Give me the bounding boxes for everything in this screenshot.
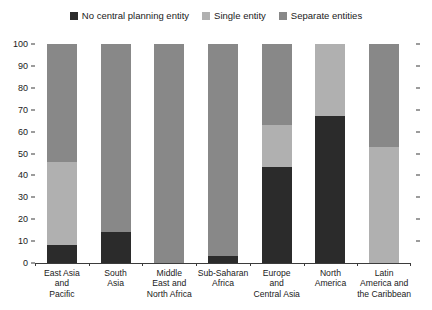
x-axis-category-label-line: Central Asia [241,289,313,299]
bar-segment-single-entity [47,162,77,245]
x-axis-category-label-line: the Caribbean [348,289,420,299]
y-axis-tick-label: 20 [13,215,28,224]
y-axis-tick-50: 50 [13,149,35,158]
bar-segment-separate-entities [154,44,184,263]
y-axis-right-tick-90 [416,65,420,66]
bar-south-asia [101,44,131,263]
bar-segment-no-central-planning-entity [262,167,292,263]
y-axis-tick-30: 30 [13,193,35,202]
bar-segment-single-entity [315,44,345,116]
y-axis-right-tick-80 [416,87,420,88]
x-axis-labels: East AsiaandPacificSouthAsiaMiddleEast a… [35,268,411,310]
bar-segment-no-central-planning-entity [47,245,77,263]
y-axis-tick-60: 60 [13,127,35,136]
legend-swatch-separate-entities [279,12,287,20]
legend-item-separate-entities: Separate entities [279,11,362,21]
x-axis-tick [410,263,411,266]
bar-segment-no-central-planning-entity [101,232,131,263]
x-axis-category-label: LatinAmerica andthe Caribbean [348,268,420,299]
legend-swatch-no-central-planning-entity [70,12,78,20]
y-axis-tick-label: 30 [13,193,28,202]
y-axis-tick-0: 0 [13,259,35,268]
y-axis-tick-label: 60 [13,127,28,136]
x-axis-tick [35,263,36,266]
y-axis-tick-10: 10 [13,237,35,246]
bar-segment-separate-entities [101,44,131,232]
legend-swatch-single-entity [202,12,210,20]
y-axis-tick-label: 50 [13,149,28,158]
y-axis-tick-label: 10 [13,237,28,246]
x-axis-tick [142,263,143,266]
y-axis-tick-90: 90 [13,61,35,70]
y-axis-tick-70: 70 [13,105,35,114]
y-axis-right-tick-60 [416,131,420,132]
y-axis-tick-40: 40 [13,171,35,180]
bar-segment-separate-entities [47,44,77,162]
bar-east-asia-and-pacific [47,44,77,263]
y-axis-right-tick-100 [416,44,420,45]
y-axis-tick-label: 40 [13,171,28,180]
y-axis-right-tick-30 [416,197,420,198]
x-axis-tick [357,263,358,266]
legend-item-no-central-planning-entity: No central planning entity [70,11,189,21]
y-axis: 0102030405060708090100 [0,44,35,263]
bar-segment-no-central-planning-entity [315,116,345,263]
y-axis-right-tick-10 [416,241,420,242]
x-axis-tick [89,263,90,266]
y-axis-tick-80: 80 [13,83,35,92]
bar-segment-separate-entities [208,44,238,256]
legend-label-separate-entities: Separate entities [291,11,362,21]
x-axis-tick [304,263,305,266]
x-axis-category-label-line: Latin [348,268,420,278]
y-axis-right-ticks [411,44,425,263]
plot-area [35,44,411,263]
x-axis-tick [250,263,251,266]
x-axis-ticks [35,263,411,267]
y-axis-tick-100: 100 [13,40,35,49]
legend-item-single-entity: Single entity [202,11,266,21]
legend-label-no-central-planning-entity: No central planning entity [82,11,189,21]
bar-segment-separate-entities [369,44,399,147]
bar-segment-single-entity [369,147,399,263]
y-axis-right-tick-20 [416,219,420,220]
x-axis-category-label-line: North Africa [133,289,205,299]
bar-middle-east-and-north-africa [154,44,184,263]
legend-label-single-entity: Single entity [214,11,266,21]
y-axis-right-tick-40 [416,175,420,176]
bar-latin-america-and-the-caribbean [369,44,399,263]
y-axis-tick-label: 100 [13,40,28,49]
y-axis-tick-label: 70 [13,105,28,114]
stacked-bar-chart: No central planning entity Single entity… [0,0,432,310]
bar-north-america [315,44,345,263]
y-axis-tick-label: 90 [13,61,28,70]
x-axis-category-label-line: Pacific [26,289,98,299]
y-axis-tick-label: 0 [13,259,28,268]
y-axis-tick-label: 80 [13,83,28,92]
bar-segment-separate-entities [262,44,292,125]
bar-sub-saharan-africa [208,44,238,263]
bar-europe-and-central-asia [262,44,292,263]
chart-legend: No central planning entity Single entity… [0,11,432,21]
y-axis-right-tick-50 [416,153,420,154]
x-axis-category-label-line: America and [348,278,420,288]
bar-segment-single-entity [262,125,292,167]
x-axis-tick [196,263,197,266]
y-axis-tick-20: 20 [13,215,35,224]
y-axis-right-tick-70 [416,109,420,110]
